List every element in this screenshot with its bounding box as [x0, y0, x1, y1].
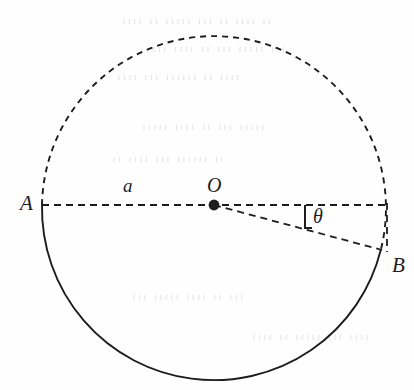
solid-minor-arc [42, 205, 381, 380]
label-radius-a: a [123, 176, 133, 195]
radius-line-ob [214, 205, 382, 250]
label-point-a: A [20, 193, 33, 214]
center-point-dot [209, 200, 220, 211]
label-point-b: B [392, 255, 405, 276]
circle-diagram: ıı ıııı ıı ııı ııııı ıı ıııı ııı ııııı ı… [0, 0, 414, 390]
label-angle-theta: θ [313, 206, 323, 226]
angle-bracket-marker [305, 205, 312, 228]
dashed-major-arc [42, 36, 386, 249]
label-center-o: O [207, 175, 221, 195]
